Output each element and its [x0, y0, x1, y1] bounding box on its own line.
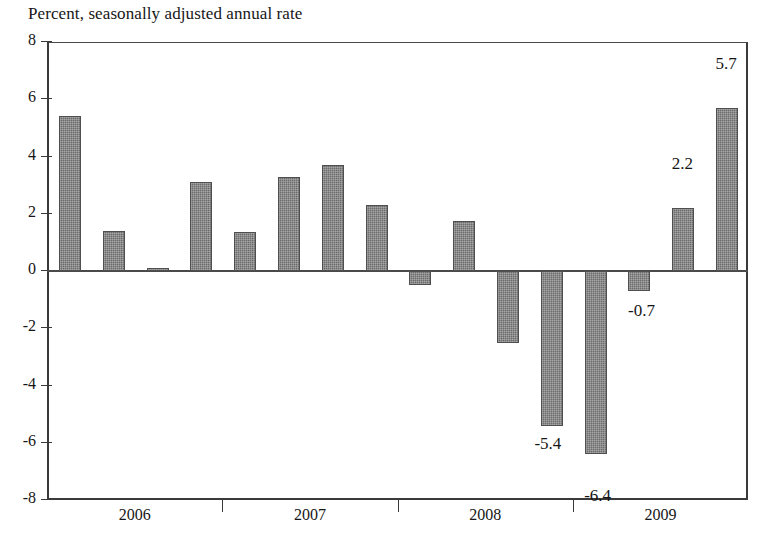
- y-axis-tick: [41, 213, 52, 214]
- bar: [541, 271, 563, 426]
- y-axis-tick: [41, 385, 52, 386]
- bar: [453, 221, 475, 271]
- x-axis-label: 2007: [270, 506, 350, 524]
- chart-title: Percent, seasonally adjusted annual rate: [28, 4, 302, 24]
- y-axis-label: 0: [6, 260, 36, 278]
- x-axis-label: 2006: [95, 506, 175, 524]
- bar-value-label: -5.4: [520, 434, 576, 454]
- x-axis-tick: [398, 500, 399, 512]
- bar-value-label: 5.7: [698, 54, 754, 74]
- bar: [409, 271, 431, 285]
- x-axis-tick: [222, 500, 223, 512]
- y-axis-label: -6: [6, 432, 36, 450]
- bar-value-label: -0.7: [613, 301, 669, 321]
- chart-root: Percent, seasonally adjusted annual rate…: [0, 0, 764, 544]
- y-axis-label: -2: [6, 317, 36, 335]
- bar: [497, 271, 519, 343]
- x-axis-label: 2008: [445, 506, 525, 524]
- bar: [585, 271, 607, 454]
- y-axis-tick: [41, 499, 52, 500]
- y-axis-tick: [41, 98, 52, 99]
- bar: [59, 116, 81, 271]
- y-axis-tick: [41, 156, 52, 157]
- y-axis-tick: [41, 442, 52, 443]
- bar: [366, 205, 388, 271]
- y-axis-label: 4: [6, 146, 36, 164]
- y-axis-tick: [41, 41, 52, 42]
- bar: [628, 271, 650, 291]
- bar: [672, 208, 694, 271]
- bar-value-label: 2.2: [654, 154, 710, 174]
- y-axis-label: 2: [6, 203, 36, 221]
- bar: [234, 232, 256, 271]
- y-axis-label: 6: [6, 88, 36, 106]
- bar: [716, 108, 738, 271]
- bar: [278, 177, 300, 271]
- y-axis-label: 8: [6, 31, 36, 49]
- y-axis-tick: [41, 327, 52, 328]
- y-axis-label: -8: [6, 489, 36, 507]
- bar: [322, 165, 344, 271]
- x-axis-label: 2009: [620, 506, 700, 524]
- y-axis-label: -4: [6, 375, 36, 393]
- bar: [190, 182, 212, 271]
- bar: [147, 268, 169, 271]
- bar-value-label: -6.4: [570, 486, 626, 506]
- bar: [103, 231, 125, 271]
